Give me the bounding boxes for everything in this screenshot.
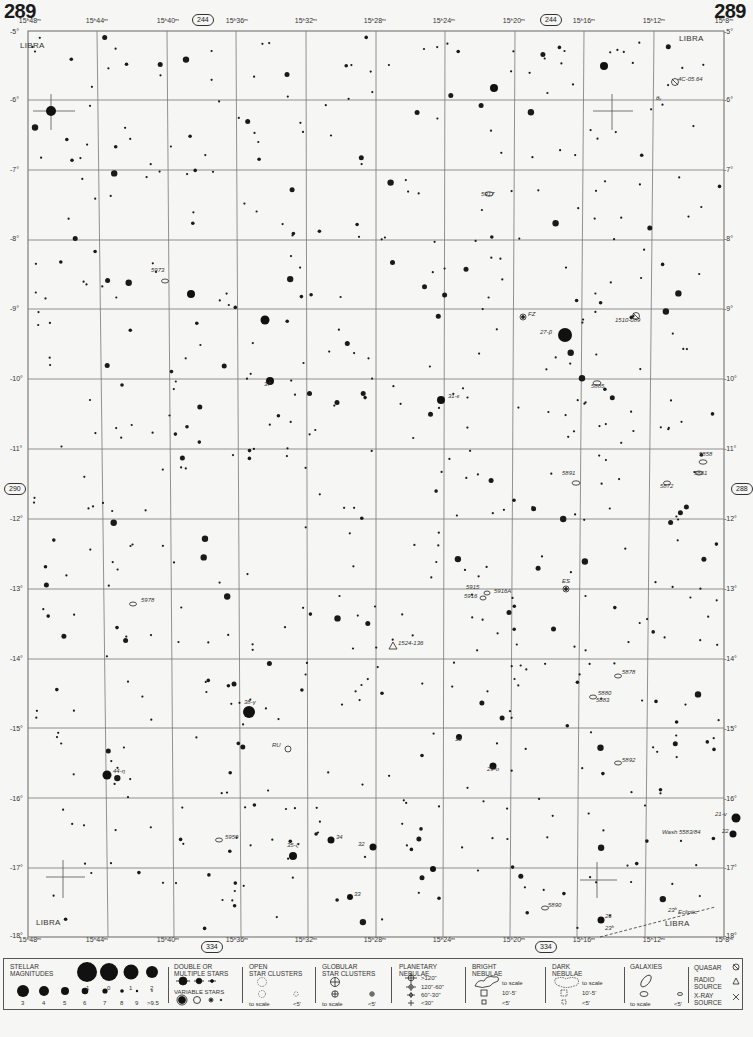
object-label: 5891 (562, 470, 575, 476)
object-label: 5917 (481, 191, 494, 197)
object-label: 5973 (151, 267, 164, 273)
legend-text: <30" (421, 1000, 433, 1007)
object-label: 33 (354, 891, 361, 897)
object-label: FZ (528, 311, 535, 317)
galaxies (130, 192, 708, 910)
ecliptic-line (600, 907, 715, 937)
legend-text: 10'-5' (502, 990, 516, 997)
object-label: 5872 (660, 483, 673, 489)
magnitude-label: 7 (103, 1000, 106, 1007)
legend-text: <5' (368, 1001, 376, 1008)
legend-special-sources: QUASAR RADIOSOURCE X-RAYSOURCE (694, 959, 742, 1009)
object-label: θᵧ (656, 95, 661, 101)
object-label: 5978 (141, 597, 154, 603)
object-label: 5916 (464, 593, 477, 599)
legend: STELLARMAGNITUDES -1 0 1 2 3 4 5 6 7 8 9… (3, 958, 743, 1010)
constellation-label: LIBRA (679, 34, 704, 43)
quasar-icons (633, 79, 679, 320)
legend-text: to scale (249, 1001, 270, 1008)
object-label: 5890 (548, 902, 561, 908)
object-label: 5892 (622, 757, 635, 763)
object-label: 4C-05.64 (678, 76, 703, 82)
radio-source-icon (389, 642, 397, 649)
magnitude-label: 8 (120, 1000, 123, 1007)
object-label: 32 (358, 841, 365, 847)
legend-bright-nebulae: BRIGHTNEBULAE to scale 10'-5' <5' (472, 959, 540, 1009)
object-label: RU (272, 742, 281, 748)
object-label: 21-ν (715, 811, 727, 817)
object-label: 5959 (225, 834, 238, 840)
legend-divider (391, 967, 392, 1003)
constellation-label: LIBRA (20, 41, 45, 50)
legend-text: <5' (674, 1001, 682, 1008)
legend-text: to scale (502, 980, 523, 987)
magnitude-circles-icon (10, 959, 168, 1009)
magnitude-label: 9 (135, 1000, 138, 1007)
object-label: 1524-136 (398, 640, 423, 646)
object-label: 37 (264, 381, 271, 387)
object-label: ES (562, 578, 570, 584)
object-label: 34 (336, 834, 343, 840)
legend-divider (688, 967, 689, 1003)
legend-text: to scale (582, 980, 603, 987)
magnitude-label: 5 (63, 1000, 66, 1007)
object-label: 23ʰ (605, 925, 614, 931)
magnitude-label: 6 (83, 1000, 86, 1007)
object-label: 23ʰ (668, 907, 677, 913)
legend-text: to scale (630, 1001, 651, 1008)
legend-divider (242, 967, 243, 1003)
legend-text: 120"-60" (421, 984, 444, 991)
legend-text: <5' (293, 1001, 301, 1008)
object-label: 27-β (540, 329, 552, 335)
object-label: 1510-089 (615, 317, 640, 323)
object-label: 5880 (598, 690, 611, 696)
legend-planetary-nebulae: PLANETARYNEBULAE >120" 120"-60" 60"-30" … (399, 959, 461, 1009)
crosshair-markers (33, 94, 633, 898)
legend-dark-nebulae: DARKNEBULAE to scale 10'-5' <5' (552, 959, 620, 1009)
ra-grid-lines (97, 31, 654, 937)
legend-globular-clusters: GLOBULARSTAR CLUSTERS to scale <5' (322, 959, 386, 1009)
magnitude-label: 2 (150, 985, 153, 992)
bright-nebula-icons (472, 959, 502, 1009)
magnitude-label: >9.5 (147, 1000, 159, 1007)
object-label: Wash 5583/84 (662, 829, 701, 835)
dark-nebula-icons (552, 959, 582, 1009)
object-label: 26 (605, 913, 612, 919)
magnitude-label: 4 (42, 1000, 45, 1007)
legend-text: to scale (322, 1001, 343, 1008)
object-label: 5883 (596, 697, 609, 703)
object-label: 5885 (591, 383, 604, 389)
variable-star-icons (285, 314, 569, 752)
legend-divider (168, 967, 169, 1003)
magnitude-label: 3 (21, 1000, 24, 1007)
object-label: 5915 (466, 584, 479, 590)
object-label: 22 (722, 828, 729, 834)
object-label: 5858 (699, 451, 712, 457)
legend-galaxies: GALAXIES to scale <5' (630, 959, 688, 1009)
object-label: 31-ε (448, 393, 459, 399)
constellation-label: LIBRA (36, 918, 61, 927)
object-label: 38-γ (244, 699, 256, 705)
magnitude-label: 1 (129, 985, 132, 992)
legend-divider (545, 967, 546, 1003)
object-label: 44-η (113, 768, 125, 774)
legend-stellar-magnitudes: STELLARMAGNITUDES -1 0 1 2 3 4 5 6 7 8 9… (10, 959, 168, 1009)
object-label: 30 (455, 736, 462, 742)
double-star-icons (174, 959, 244, 1009)
legend-divider (465, 967, 466, 1003)
legend-text: <5' (502, 1000, 510, 1007)
star-chart (0, 0, 750, 960)
constellation-label: LIBRA (665, 919, 690, 928)
object-label: 5916A (494, 588, 511, 594)
object-label: 29-ο (487, 766, 499, 772)
legend-text: >120" (421, 975, 437, 982)
object-label: 5878 (622, 669, 635, 675)
magnitude-label: 0 (107, 985, 110, 992)
legend-double-variable-stars: DOUBLE ORMULTIPLE STARS VARIABLE STARS (174, 959, 244, 1009)
object-label: 5861 (694, 470, 707, 476)
legend-divider (315, 967, 316, 1003)
legend-divider (624, 967, 625, 1003)
object-label: Ecliptic (678, 909, 697, 915)
magnitude-label: -1 (84, 985, 89, 992)
legend-text: 10'-5' (582, 990, 596, 997)
